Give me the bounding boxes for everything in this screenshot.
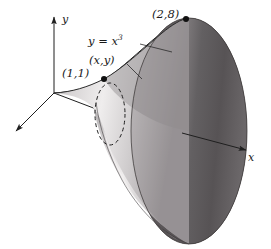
bell-mouth-face-front bbox=[189, 18, 247, 244]
surface-of-revolution bbox=[54, 18, 247, 244]
point-marker-2-8 bbox=[183, 16, 189, 22]
x-axis-label: x bbox=[248, 152, 254, 163]
z-axis-line bbox=[16, 93, 54, 131]
point-1-1-label: (1,1) bbox=[62, 68, 89, 80]
curve-equation-label: y = x3 bbox=[88, 36, 123, 48]
y-axis-label: y bbox=[62, 14, 68, 25]
figure-canvas bbox=[0, 0, 271, 249]
point-2-8-label: (2,8) bbox=[152, 9, 179, 21]
surface-of-revolution-figure: y x y = x3 (x,y) (1,1) (2,8) bbox=[0, 0, 271, 249]
point-xy-label: (x,y) bbox=[89, 55, 115, 67]
point-marker-1-1 bbox=[101, 76, 107, 82]
curve-equation-lhs: y = x bbox=[88, 34, 118, 48]
curve-equation-exponent: 3 bbox=[118, 33, 123, 42]
